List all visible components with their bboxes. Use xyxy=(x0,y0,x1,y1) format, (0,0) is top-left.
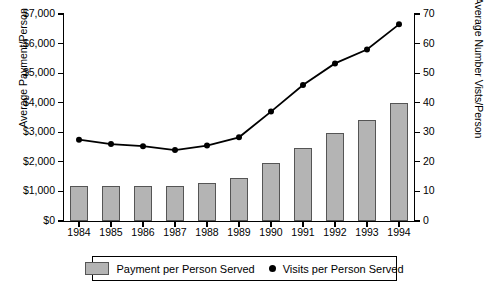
line-marker-1989 xyxy=(236,134,242,140)
y-ticklabel-right: 0 xyxy=(423,214,429,226)
y-ticklabel-right: 70 xyxy=(423,7,435,19)
y-axis-right-title: Average Number Vists/Person xyxy=(473,0,485,153)
y-ticklabel-left: $7,000 xyxy=(23,7,55,19)
bar-1986 xyxy=(134,186,152,221)
legend-bar-swatch-icon xyxy=(85,262,109,275)
line-marker-1994 xyxy=(396,21,402,27)
bar-1994 xyxy=(390,103,408,221)
y-ticklabel-right: 20 xyxy=(423,155,435,167)
y-ticklabel-right: 50 xyxy=(423,66,435,78)
y-tick-right xyxy=(415,161,420,162)
y-tick-left xyxy=(58,73,63,74)
line-marker-1990 xyxy=(268,109,274,115)
y-tick-right xyxy=(415,13,420,14)
chart-legend: Payment per Person Served Visits per Per… xyxy=(92,256,397,281)
line-marker-1992 xyxy=(332,60,338,66)
y-tick-right xyxy=(415,191,420,192)
y-ticklabel-left: $2,000 xyxy=(23,155,55,167)
y-tick-right xyxy=(415,73,420,74)
y-ticklabel-left: $6,000 xyxy=(23,37,55,49)
bar-1985 xyxy=(102,186,120,221)
y-ticklabel-left: $4,000 xyxy=(23,96,55,108)
bar-1992 xyxy=(326,133,344,221)
y-tick-right xyxy=(415,43,420,44)
y-ticklabel-left: $5,000 xyxy=(23,66,55,78)
legend-label-payment: Payment per Person Served xyxy=(116,263,254,275)
x-ticklabel: 1994 xyxy=(377,226,421,238)
legend-dot-icon xyxy=(269,265,276,272)
line-marker-1988 xyxy=(204,143,210,149)
y-axis-left-line xyxy=(63,13,64,222)
bar-1984 xyxy=(70,186,88,221)
y-tick-left xyxy=(58,161,63,162)
line-marker-1986 xyxy=(140,143,146,149)
y-tick-left xyxy=(58,220,63,221)
bar-1988 xyxy=(198,183,216,221)
y-ticklabel-left: $1,000 xyxy=(23,184,55,196)
legend-label-visits: Visits per Person Served xyxy=(283,263,404,275)
line-marker-1991 xyxy=(300,82,306,88)
line-path xyxy=(79,24,399,150)
legend-item-visits: Visits per Person Served xyxy=(269,263,404,275)
bar-1991 xyxy=(294,148,312,221)
y-ticklabel-right: 40 xyxy=(423,96,435,108)
line-marker-1987 xyxy=(172,147,178,153)
line-marker-1985 xyxy=(108,141,114,147)
y-tick-left xyxy=(58,132,63,133)
y-tick-left xyxy=(58,102,63,103)
y-tick-left xyxy=(58,191,63,192)
y-ticklabel-right: 10 xyxy=(423,184,435,196)
y-tick-right xyxy=(415,102,420,103)
y-ticklabel-left: $0 xyxy=(43,214,55,226)
line-marker-1993 xyxy=(364,46,370,52)
y-tick-left xyxy=(58,43,63,44)
y-tick-left xyxy=(58,13,63,14)
bar-1993 xyxy=(358,120,376,221)
line-marker-1984 xyxy=(76,137,82,143)
bar-1989 xyxy=(230,178,248,221)
legend-item-payment: Payment per Person Served xyxy=(85,262,254,275)
bar-1987 xyxy=(166,186,184,221)
bar-1990 xyxy=(262,163,280,221)
y-ticklabel-right: 60 xyxy=(423,37,435,49)
y-tick-right xyxy=(415,132,420,133)
y-ticklabel-left: $3,000 xyxy=(23,125,55,137)
y-ticklabel-right: 30 xyxy=(423,125,435,137)
y-tick-right xyxy=(415,220,420,221)
